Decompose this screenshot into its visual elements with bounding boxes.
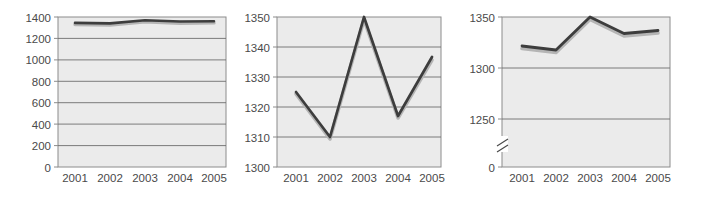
chart-row: 1400 1200 1000 800 600 400 200 0 2001 20… [0, 0, 701, 203]
y-tick-label: 1350 [469, 12, 495, 24]
y-tick-label: 1350 [244, 12, 270, 24]
y-tick-label: 1400 [25, 12, 51, 24]
x-tick-label: 2005 [645, 172, 671, 184]
x-tick-label: 2003 [351, 172, 377, 184]
x-tick-label: 2005 [419, 172, 445, 184]
y-axis-ticks [273, 17, 277, 167]
plot-area [58, 17, 226, 167]
x-tick-label: 2004 [611, 172, 637, 184]
y-tick-label: 1000 [25, 54, 51, 66]
y-tick-label: 1330 [244, 72, 270, 84]
y-tick-label: 1340 [244, 42, 270, 54]
y-tick-label: 800 [32, 76, 51, 88]
x-tick-label: 2003 [132, 172, 158, 184]
x-tick-label: 2002 [317, 172, 343, 184]
x-tick-label: 2004 [385, 172, 411, 184]
x-tick-label: 2005 [201, 172, 227, 184]
y-tick-label: 1300 [469, 63, 495, 75]
chart-svg-full-scale: 1400 1200 1000 800 600 400 200 0 2001 20… [0, 0, 234, 203]
chart-svg-zoomed: 1350 1340 1330 1320 1310 1300 2001 2002 … [234, 0, 468, 203]
y-tick-label: 1310 [244, 132, 270, 144]
x-tick-label: 2003 [577, 172, 603, 184]
x-tick-label: 2002 [97, 172, 123, 184]
x-tick-label: 2001 [509, 172, 535, 184]
plot-area [502, 17, 670, 167]
x-tick-label: 2002 [543, 172, 569, 184]
y-tick-label: 1320 [244, 102, 270, 114]
y-tick-label: 400 [32, 119, 51, 131]
chart-svg-broken-axis: 1350 1300 1250 0 2001 2002 2003 2004 200… [467, 0, 701, 203]
y-tick-label: 0 [45, 162, 51, 174]
y-tick-label: 200 [32, 140, 51, 152]
chart-panel-zoomed: 1350 1340 1330 1320 1310 1300 2001 2002 … [234, 0, 468, 203]
chart-panel-broken-axis: 1350 1300 1250 0 2001 2002 2003 2004 200… [467, 0, 701, 203]
y-tick-label: 600 [32, 97, 51, 109]
x-tick-label: 2004 [167, 172, 193, 184]
axis-break-icon [497, 136, 508, 152]
y-axis-ticks [54, 17, 58, 167]
x-tick-label: 2001 [283, 172, 309, 184]
x-tick-label: 2001 [62, 172, 88, 184]
y-tick-label: 1250 [469, 114, 495, 126]
y-tick-label: 0 [489, 162, 495, 174]
y-tick-label: 1200 [25, 33, 51, 45]
chart-panel-full-scale: 1400 1200 1000 800 600 400 200 0 2001 20… [0, 0, 234, 203]
y-tick-label: 1300 [244, 162, 270, 174]
